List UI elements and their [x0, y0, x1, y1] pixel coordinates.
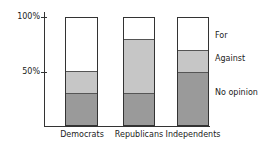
- y-tick-label-100: 100%: [17, 13, 40, 21]
- stacked-bar-chart: 100% 50% Democrats Republicans Independe…: [0, 0, 270, 143]
- segment-no-opinion: [178, 72, 208, 126]
- y-axis: [44, 12, 45, 127]
- segment-no-opinion: [124, 93, 154, 126]
- segment-for: [124, 18, 154, 39]
- category-label-republicans: Republicans: [109, 130, 169, 139]
- segment-against: [124, 39, 154, 93]
- segment-for: [178, 18, 208, 50]
- legend-no-opinion: No opinion: [215, 88, 258, 97]
- category-label-democrats: Democrats: [52, 130, 112, 139]
- segment-for: [66, 18, 97, 71]
- legend-for: For: [215, 31, 228, 40]
- bar-independents: [177, 17, 209, 126]
- segment-no-opinion: [66, 93, 97, 126]
- y-tick-label-50: 50%: [22, 68, 40, 76]
- segment-against: [178, 50, 208, 72]
- bar-democrats: [65, 17, 98, 126]
- y-tick-100: [41, 17, 47, 18]
- legend-against: Against: [215, 54, 245, 63]
- category-label-independents: Independents: [163, 130, 223, 139]
- y-tick-50: [41, 72, 47, 73]
- x-axis: [44, 126, 210, 127]
- segment-against: [66, 71, 97, 93]
- bar-republicans: [123, 17, 155, 126]
